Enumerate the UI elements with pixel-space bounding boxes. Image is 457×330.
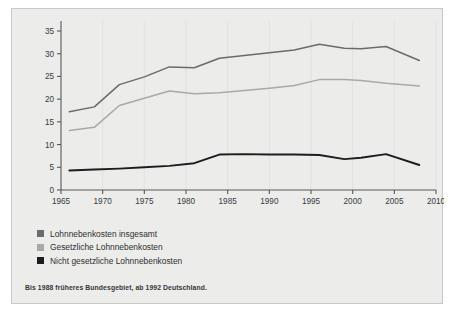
x-tick-label: 1995 bbox=[302, 197, 321, 206]
y-tick-label: 30 bbox=[45, 50, 55, 59]
x-tick-label: 2010 bbox=[427, 197, 444, 206]
chart-footnote: Bis 1988 früheres Bundesgebiet, ab 1992 … bbox=[25, 284, 207, 291]
legend-label-statutory: Gesetzliche Lohnnebenkosten bbox=[50, 243, 163, 251]
series-line-1 bbox=[69, 80, 419, 131]
legend-item-total: Lohnnebenkosten insgesamt bbox=[37, 227, 377, 241]
x-tick-label: 2000 bbox=[344, 197, 363, 206]
legend-item-nonstatutory: Nicht gesetzliche Lohnnebenkosten bbox=[37, 254, 377, 268]
y-tick-label: 20 bbox=[45, 95, 55, 104]
legend-label-total: Lohnnebenkosten insgesamt bbox=[50, 230, 157, 238]
legend-item-statutory: Gesetzliche Lohnnebenkosten bbox=[37, 241, 377, 255]
chart-legend: Lohnnebenkosten insgesamt Gesetzliche Lo… bbox=[37, 227, 377, 268]
plot-area: 0510152025303519651970197519801985199019… bbox=[12, 9, 444, 219]
legend-swatch-icon-statutory bbox=[37, 244, 44, 251]
y-tick-label: 15 bbox=[45, 118, 55, 127]
x-tick-label: 1965 bbox=[52, 197, 71, 206]
line-chart: 0510152025303519651970197519801985199019… bbox=[12, 9, 444, 219]
x-tick-label: 1970 bbox=[94, 197, 113, 206]
x-tick-label: 1990 bbox=[260, 197, 279, 206]
y-tick-label: 10 bbox=[45, 141, 55, 150]
x-tick-label: 1975 bbox=[135, 197, 154, 206]
x-tick-label: 1980 bbox=[177, 197, 196, 206]
legend-swatch-icon-total bbox=[37, 230, 44, 237]
x-tick-label: 2005 bbox=[385, 197, 404, 206]
legend-label-nonstatutory: Nicht gesetzliche Lohnnebenkosten bbox=[50, 257, 182, 265]
y-tick-label: 25 bbox=[45, 72, 55, 81]
series-line-2 bbox=[69, 154, 419, 170]
y-tick-label: 35 bbox=[45, 27, 55, 36]
x-tick-label: 1985 bbox=[219, 197, 238, 206]
chart-figure: 0510152025303519651970197519801985199019… bbox=[11, 8, 443, 304]
y-tick-label: 0 bbox=[49, 186, 54, 195]
legend-swatch-icon-nonstatutory bbox=[37, 257, 44, 264]
y-tick-label: 5 bbox=[49, 163, 54, 172]
series-line-0 bbox=[69, 44, 419, 112]
